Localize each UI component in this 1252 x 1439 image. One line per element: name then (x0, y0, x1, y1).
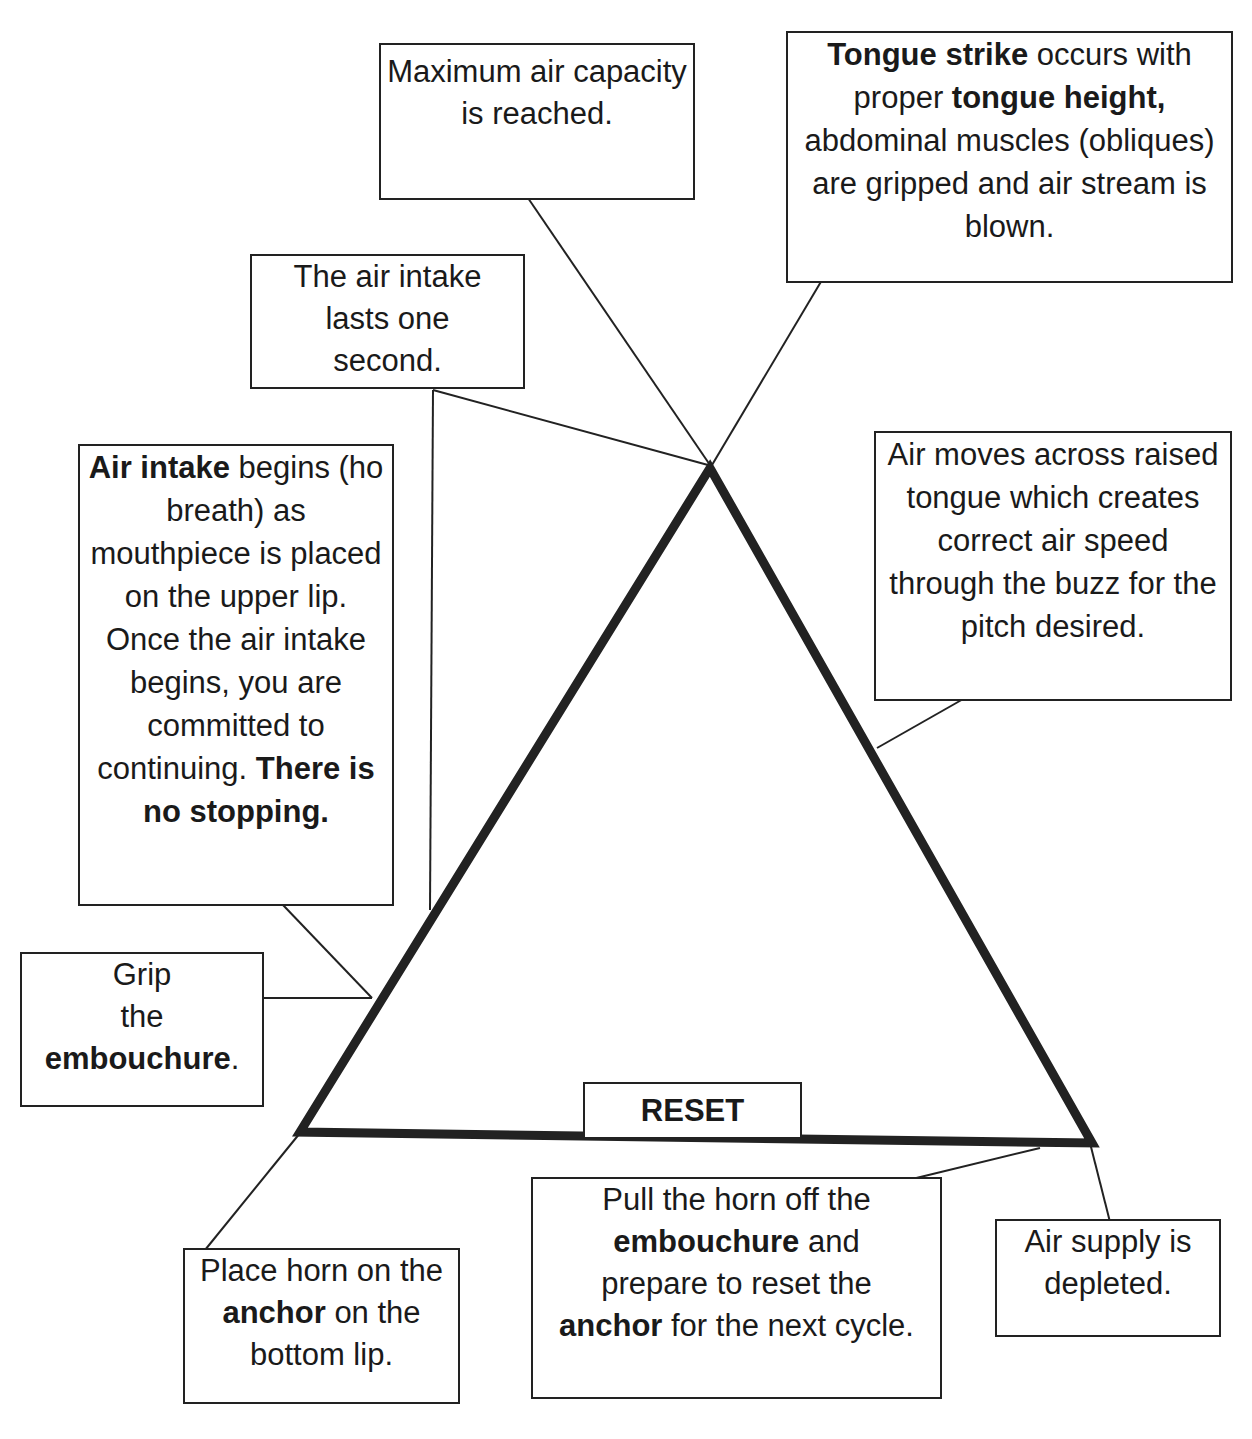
box-text: Air supply is depleted. (1024, 1224, 1191, 1301)
box-max-air: Maximum air capacity is reached. (379, 43, 695, 200)
box-text: The air intake lasts one second. (294, 259, 482, 378)
box-text: abdominal muscles (obliques) are gripped… (804, 123, 1214, 244)
box-text: Grip the (97, 954, 187, 1038)
box-air-moves: Air moves across raised tongue which cre… (874, 431, 1232, 701)
bold-term: embouchure (45, 1041, 231, 1076)
box-text: Pull the horn off the (602, 1182, 870, 1217)
bold-term: Air intake (89, 450, 230, 485)
box-pull-horn: Pull the horn off the embouchure and pre… (531, 1177, 942, 1399)
bold-term: embouchure (613, 1224, 799, 1259)
box-text: begins (ho breath) as mouthpiece is plac… (90, 450, 383, 786)
bold-term: anchor (559, 1308, 662, 1343)
bold-term: Tongue strike (827, 37, 1028, 72)
box-tongue-strike: Tongue strike occurs with proper tongue … (786, 31, 1233, 283)
box-depleted: Air supply is depleted. (995, 1219, 1221, 1337)
box-text: Place horn on the (200, 1253, 443, 1288)
box-text: for the next cycle. (662, 1308, 914, 1343)
box-intake-begins: Air intake begins (ho breath) as mouthpi… (78, 444, 394, 906)
box-text: Maximum air capacity is reached. (387, 54, 687, 131)
bold-term: anchor (222, 1295, 325, 1330)
bold-term: tongue height, (952, 80, 1166, 115)
box-place-horn: Place horn on the anchor on the bottom l… (183, 1248, 460, 1404)
reset-text: RESET (641, 1093, 744, 1128)
reset-label: RESET (583, 1082, 802, 1139)
box-intake-lasts: The air intake lasts one second. (250, 254, 525, 389)
box-text: Air moves across raised tongue which cre… (888, 437, 1219, 644)
box-grip: Grip the embouchure. (20, 952, 264, 1107)
box-text: . (231, 1041, 240, 1076)
